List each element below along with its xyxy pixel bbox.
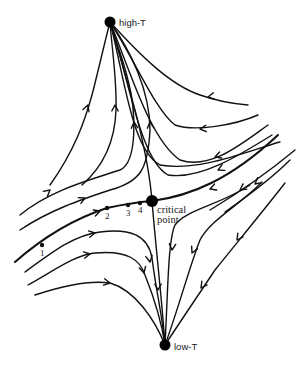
trajectory-point-3	[126, 203, 130, 207]
trajectory-point-label: 4	[138, 205, 143, 215]
low-t-label: low-T	[174, 341, 197, 352]
arrowhead-icon	[200, 125, 207, 132]
fixed-point-high-T	[105, 17, 116, 28]
rg-flow-diagram: 1234 high-T critical point low-T	[0, 0, 300, 369]
arrowhead-icon	[112, 105, 118, 111]
flow-line-left-to-low-2	[28, 252, 165, 345]
trajectory-point-2	[105, 206, 109, 210]
critical-point-label-line2: point	[157, 214, 179, 225]
flow-line-high-to-right-2	[110, 22, 258, 128]
flow-line-right-to-high-5	[110, 22, 280, 166]
flow-line-left-to-low-1	[25, 231, 165, 345]
arrowhead-icon	[189, 246, 197, 254]
trajectory-point-label: 3	[126, 208, 131, 218]
trajectory-point-label: 2	[105, 211, 110, 221]
flow-line-separatrix-horizontal-left	[15, 201, 152, 262]
flow-line-left-to-low-3	[35, 282, 165, 345]
trajectory-point-label: 1	[40, 248, 45, 258]
fixed-point-low-T	[160, 340, 171, 351]
trajectory-point-1	[40, 243, 44, 247]
flow-line-left-to-high-1	[50, 22, 110, 185]
flow-lines	[15, 22, 295, 345]
flow-line-separatrix-horizontal-right	[152, 135, 278, 201]
trajectory-points: 1234	[40, 201, 143, 258]
flow-line-left-to-high-2	[82, 22, 116, 185]
high-t-label: high-T	[119, 17, 146, 28]
arrowhead-icon	[209, 184, 217, 192]
